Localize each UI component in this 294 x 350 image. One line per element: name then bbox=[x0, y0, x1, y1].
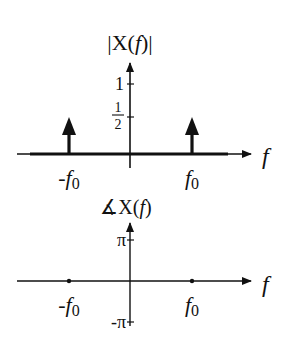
impulse-pos-f0 bbox=[185, 117, 199, 154]
phase-point-pos-f0 bbox=[190, 279, 194, 283]
svg-text:1: 1 bbox=[115, 100, 122, 115]
tick-label-pi: π bbox=[117, 230, 126, 250]
impulse-arrowhead-icon bbox=[185, 117, 199, 135]
tick-label-one: 1 bbox=[115, 74, 124, 94]
tick-label-half: 1 2 bbox=[112, 100, 124, 132]
impulse-arrowhead-icon bbox=[62, 117, 76, 135]
x-tick-neg-f0: -f0 bbox=[58, 165, 79, 192]
phase-plot: ∡X(f) π -π f -f0 f0 bbox=[17, 196, 272, 332]
tick-label-neg-pi: -π bbox=[111, 312, 126, 332]
spectrum-diagram: |X(f)| 1 1 2 f -f0 f0 bbox=[0, 0, 294, 350]
phase-title: ∡X(f) bbox=[100, 196, 151, 219]
phase-x-tick-pos-f0: f0 bbox=[185, 292, 199, 319]
magnitude-x-label: f bbox=[262, 143, 272, 169]
magnitude-title: |X(f)| bbox=[107, 30, 152, 55]
phase-point-neg-f0 bbox=[67, 279, 71, 283]
impulse-neg-f0 bbox=[62, 117, 76, 154]
phase-x-tick-neg-f0: -f0 bbox=[58, 292, 79, 319]
phase-x-label: f bbox=[262, 271, 272, 297]
x-tick-pos-f0: f0 bbox=[185, 165, 199, 192]
magnitude-plot: |X(f)| 1 1 2 f -f0 f0 bbox=[17, 30, 272, 192]
svg-text:2: 2 bbox=[115, 117, 122, 132]
